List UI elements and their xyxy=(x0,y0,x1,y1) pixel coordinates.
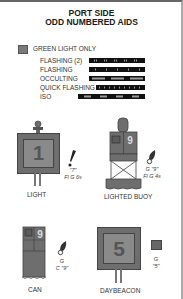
char-label: FLASHING (2) xyxy=(40,57,82,64)
svg-text:9: 9 xyxy=(127,135,133,146)
char-label: ISO xyxy=(40,93,51,100)
lighted-buoy-caption: LIGHTED BUOY xyxy=(104,193,152,200)
char-row-flashing: FLASHING xyxy=(40,66,145,74)
occulting-bar xyxy=(89,76,145,81)
title-line-2: ODD NUMBERED AIDS xyxy=(0,18,183,27)
light-post-left xyxy=(34,173,36,186)
lantern-icon xyxy=(32,120,44,134)
lighted-buoy-symbol-icon xyxy=(146,150,157,165)
occulting-pattern-icon xyxy=(89,76,145,81)
iso-bar xyxy=(78,94,145,99)
char-label: OCCULTING xyxy=(40,75,78,82)
daybeacon-number: 5 xyxy=(103,233,135,264)
light-post-right xyxy=(39,173,41,186)
quick-flashing-pattern-icon xyxy=(96,85,145,90)
char-label: FLASHING xyxy=(40,66,73,73)
char-row-flashing-2: FLASHING (2) xyxy=(40,57,145,65)
char-row-occulting: OCCULTING xyxy=(40,75,145,83)
iso-pattern-icon xyxy=(78,94,145,99)
light-caption: LIGHT xyxy=(27,191,46,198)
char-row-iso: ISO xyxy=(40,93,145,101)
daybeacon-chart-label: G "5" xyxy=(148,256,164,270)
can-buoy-icon: 9 xyxy=(22,226,46,280)
daybeacon-post-right xyxy=(120,269,122,283)
can-chart-label: G C "9" xyxy=(50,258,74,272)
light-flare-icon xyxy=(67,150,77,167)
flashing-bar xyxy=(89,67,145,72)
daybeacon-caption: DAYBEACON xyxy=(100,287,140,294)
svg-text:9: 9 xyxy=(37,229,43,240)
light-chart-label: "7" Fl G 6s xyxy=(62,167,84,181)
light-number: 1 xyxy=(23,139,54,168)
flashing-2-bar xyxy=(89,58,145,63)
can-buoy-symbol-icon xyxy=(57,241,68,256)
diagram-title: PORT SIDE ODD NUMBERED AIDS xyxy=(0,9,183,27)
daybeacon-post-left xyxy=(115,269,117,283)
can-caption: CAN xyxy=(28,286,42,293)
square-daybeacon-symbol-icon xyxy=(151,240,162,250)
char-row-quick-flashing: QUICK FLASHING xyxy=(40,84,145,92)
lighted-buoy-chart-label: G "9" Fl G 4s xyxy=(138,166,166,180)
flashing-pattern-icon xyxy=(89,67,145,72)
legend-label: GREEN LIGHT ONLY xyxy=(33,45,96,52)
char-label: QUICK FLASHING xyxy=(40,84,95,91)
quick-flashing-bar xyxy=(96,85,145,90)
flashing-2-pattern-icon xyxy=(89,58,145,63)
green-light-swatch xyxy=(18,45,28,54)
